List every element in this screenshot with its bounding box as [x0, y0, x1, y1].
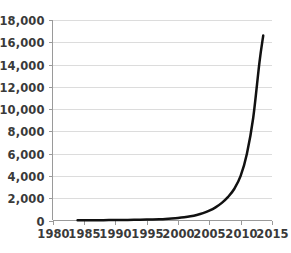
y-tick-label: 16,000 [0, 36, 45, 50]
x-tick-label: 1995 [131, 227, 163, 241]
y-tick-label: 14,000 [0, 59, 45, 73]
y-tick-label: 2,000 [8, 192, 45, 206]
x-tick-label: 2015 [256, 227, 288, 241]
x-tick-label: 2010 [225, 227, 257, 241]
y-tick-label: 18,000 [0, 14, 45, 28]
x-tick-label: 2000 [162, 227, 194, 241]
gridlines [53, 21, 273, 199]
y-tick-label: 8,000 [8, 125, 45, 139]
y-axis-ticks [49, 21, 53, 222]
chart-canvas: 02,0004,0006,0008,00010,00012,00014,0001… [0, 0, 291, 253]
x-tick-label: 1990 [99, 227, 131, 241]
y-axis-labels: 02,0004,0006,0008,00010,00012,00014,0001… [0, 14, 45, 229]
y-tick-label: 4,000 [8, 170, 45, 184]
x-tick-label: 1980 [37, 227, 69, 241]
data-series-line [78, 36, 264, 221]
x-tick-label: 2005 [193, 227, 225, 241]
x-tick-label: 1985 [68, 227, 100, 241]
y-tick-label: 6,000 [8, 148, 45, 162]
y-tick-label: 10,000 [0, 103, 45, 117]
exponential-growth-chart: 02,0004,0006,0008,00010,00012,00014,0001… [0, 0, 291, 253]
x-axis-labels: 19801985199019952000200520102015 [37, 227, 288, 241]
y-tick-label: 12,000 [0, 81, 45, 95]
